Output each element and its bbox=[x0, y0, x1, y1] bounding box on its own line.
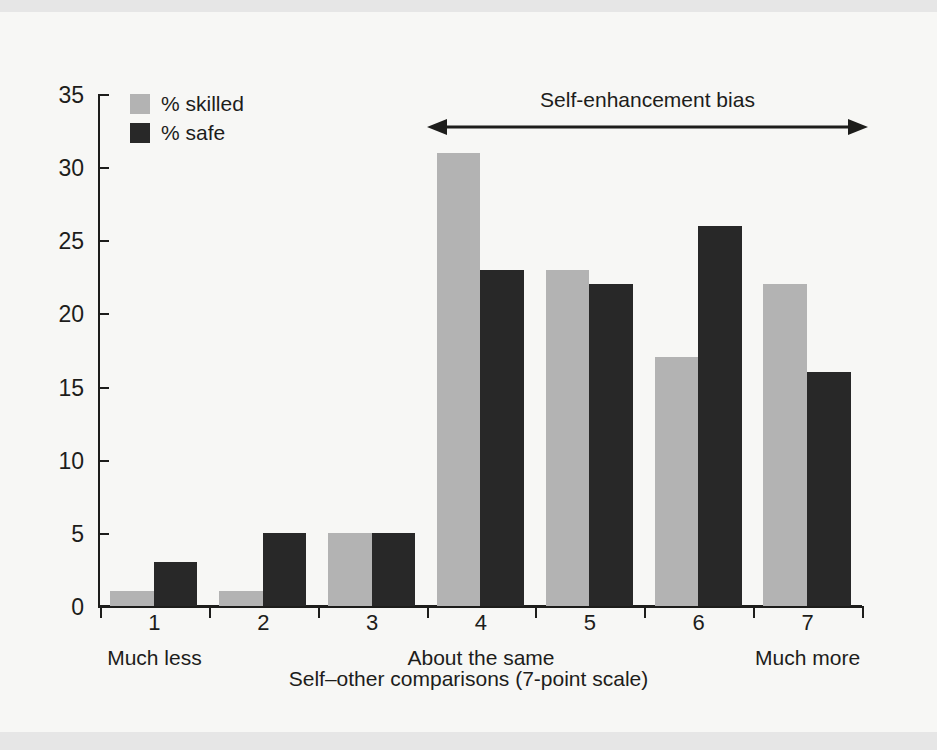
bar-skilled-6 bbox=[655, 357, 699, 606]
y-tick-label-10: 10 bbox=[58, 447, 84, 474]
bar-chart-figure: % skilled % safe Self-enhancement bias 0… bbox=[0, 12, 937, 732]
bar-group-2: 2 bbox=[209, 94, 318, 606]
bar-group-3: 3 bbox=[318, 94, 427, 606]
bar-skilled-2 bbox=[219, 591, 263, 606]
bar-group-4: 4 bbox=[427, 94, 536, 606]
y-tick-label-15: 15 bbox=[58, 374, 84, 401]
bar-skilled-3 bbox=[328, 533, 372, 606]
y-tick-label-0: 0 bbox=[71, 594, 84, 621]
bar-group-6: 6 bbox=[644, 94, 753, 606]
y-tick-label-35: 35 bbox=[58, 82, 84, 109]
bar-safe-5 bbox=[589, 284, 633, 606]
x-axis-title: Self–other comparisons (7-point scale) bbox=[0, 667, 937, 691]
bar-group-5: 5 bbox=[535, 94, 644, 606]
bar-skilled-4 bbox=[437, 153, 481, 606]
x-category-label-3: 3 bbox=[318, 610, 427, 636]
x-category-label-1: 1 bbox=[100, 610, 209, 636]
y-tick-label-25: 25 bbox=[58, 228, 84, 255]
y-tick-label-20: 20 bbox=[58, 301, 84, 328]
bar-safe-4 bbox=[480, 270, 524, 606]
bar-safe-2 bbox=[263, 533, 307, 606]
x-category-label-4: 4 bbox=[427, 610, 536, 636]
bar-safe-3 bbox=[372, 533, 416, 606]
bar-skilled-5 bbox=[546, 270, 590, 606]
x-category-label-6: 6 bbox=[644, 610, 753, 636]
bar-safe-7 bbox=[807, 372, 851, 606]
y-tick-label-30: 30 bbox=[58, 155, 84, 182]
bar-group-1: 1 bbox=[100, 94, 209, 606]
bar-group-7: 7 bbox=[753, 94, 862, 606]
x-tick-7 bbox=[862, 606, 864, 618]
x-category-label-5: 5 bbox=[535, 610, 644, 636]
x-category-label-2: 2 bbox=[209, 610, 318, 636]
bar-safe-1 bbox=[154, 562, 198, 606]
x-category-label-7: 7 bbox=[753, 610, 862, 636]
y-tick-label-5: 5 bbox=[71, 520, 84, 547]
figure-page: % skilled % safe Self-enhancement bias 0… bbox=[0, 0, 937, 750]
bar-skilled-7 bbox=[763, 284, 807, 606]
page-top-band bbox=[0, 0, 937, 12]
page-bottom-band bbox=[0, 732, 937, 750]
plot-area: 05101520253035 1234567 Much lessAbout th… bbox=[100, 94, 862, 606]
bar-safe-6 bbox=[698, 226, 742, 606]
bar-skilled-1 bbox=[110, 591, 154, 606]
